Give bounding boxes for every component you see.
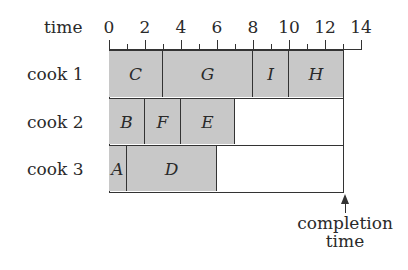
completion-arrow-stem <box>345 203 346 213</box>
axis-major-tick <box>289 40 290 50</box>
task-block-F: F <box>145 99 181 144</box>
cook-row-frame: AD <box>109 145 344 193</box>
axis-tick-label: 0 <box>94 17 124 37</box>
axis-major-tick <box>217 40 218 50</box>
axis-tick-label: 4 <box>166 17 196 37</box>
task-block-G: G <box>163 51 253 97</box>
axis-label: time <box>44 17 82 37</box>
axis-major-tick <box>361 40 362 50</box>
task-block-B: B <box>109 99 145 144</box>
axis-major-tick <box>181 40 182 50</box>
task-block-H: H <box>289 51 343 97</box>
axis-major-tick <box>109 40 110 50</box>
task-block-C: C <box>109 51 163 97</box>
task-block-A: A <box>109 146 127 191</box>
task-block-I: I <box>253 51 289 97</box>
task-block-D: D <box>127 146 217 191</box>
row-label-cook-1: cook 1 <box>27 64 84 84</box>
row-label-cook-2: cook 2 <box>27 112 84 132</box>
cook-row-frame: CGIH <box>109 50 344 99</box>
axis-tick-label: 6 <box>202 17 232 37</box>
axis-major-tick <box>145 40 146 50</box>
axis-tick-label: 12 <box>310 17 340 37</box>
axis-tick-label: 8 <box>238 17 268 37</box>
completion-label-line2: time <box>290 232 400 251</box>
row-label-cook-3: cook 3 <box>27 159 84 179</box>
task-block-E: E <box>181 99 235 144</box>
axis-major-tick <box>325 40 326 50</box>
axis-major-tick <box>253 40 254 50</box>
axis-tick-label: 14 <box>346 17 376 37</box>
axis-tick-label: 2 <box>130 17 160 37</box>
axis-tick-label: 10 <box>274 17 304 37</box>
cook-row-frame: BFE <box>109 98 344 146</box>
